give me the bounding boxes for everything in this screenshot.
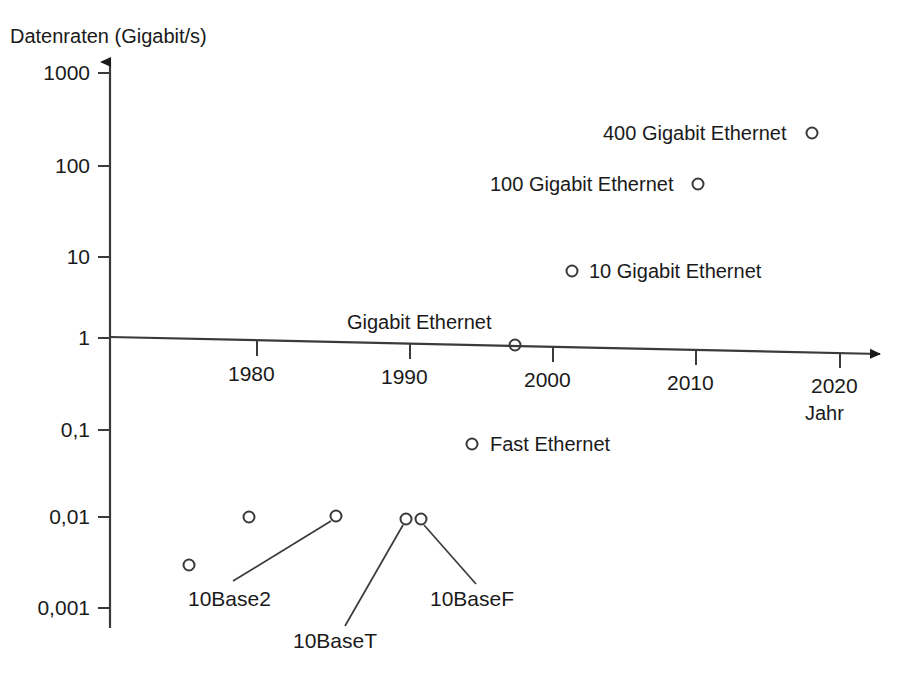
leader-line-10baset [345,525,403,626]
marker-early-ethernet [184,560,195,571]
y-axis-title: Datenraten (Gigabit/s) [10,26,207,46]
y-tick-label-0.001: 0,001 [0,597,90,618]
series-label-400-gigabit-ethernet: 400 Gigabit Ethernet [603,123,786,143]
y-tick-label-10: 10 [0,246,90,267]
series-label-fast-ethernet: Fast Ethernet [490,434,610,454]
series-label-10base2: 10Base2 [188,588,271,609]
x-tick-label-2000: 2000 [524,369,571,390]
x-tick-label-2020: 2020 [811,375,858,396]
series-label-gigabit-ethernet: Gigabit Ethernet [347,312,492,332]
leader-lines [233,521,476,626]
marker-10base2 [331,511,342,522]
marker-10baset [401,514,412,525]
y-tick-label-100: 100 [0,155,90,176]
y-tick-label-0.1: 0,1 [0,419,90,440]
marker-100-gigabit-ethernet [693,179,704,190]
leader-line-10base2 [233,521,331,581]
x-tick-label-1990: 1990 [381,366,428,387]
y-tick-label-0.01: 0,01 [0,506,90,527]
marker-10base5 [244,512,255,523]
series-label-100-gigabit-ethernet: 100 Gigabit Ethernet [490,174,673,194]
marker-400-gigabit-ethernet [807,128,818,139]
chart-canvas [0,0,907,684]
x-axis-line [110,337,880,354]
series-label-10-gigabit-ethernet: 10 Gigabit Ethernet [589,261,761,281]
ethernet-datarate-chart: Datenraten (Gigabit/s) Jahr 1000 100 10 … [0,0,907,684]
x-tick-label-1980: 1980 [228,363,275,384]
marker-fast-ethernet [467,439,478,450]
y-tick-label-1: 1 [0,327,90,348]
marker-10-gigabit-ethernet [567,266,578,277]
y-tick-label-1000: 1000 [0,62,90,83]
marker-10basef [416,514,427,525]
x-tick-label-2010: 2010 [667,372,714,393]
leader-line-10basef [424,525,476,584]
x-axis [110,337,880,368]
x-axis-title: Jahr [805,403,844,423]
series-label-10baset: 10BaseT [293,630,377,651]
y-axis [98,62,110,628]
series-label-10basef: 10BaseF [430,588,514,609]
